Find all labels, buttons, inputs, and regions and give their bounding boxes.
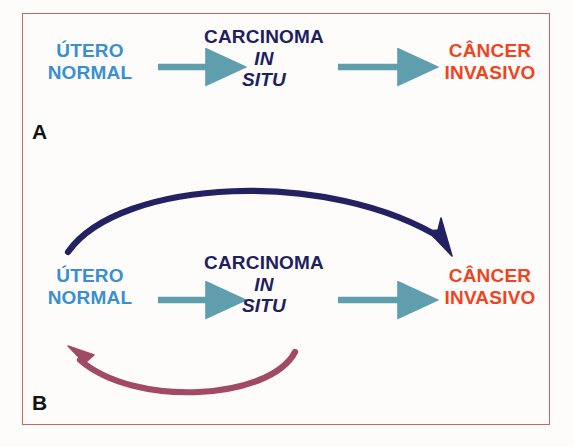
panel-a-carcinoma-line2: IN: [190, 48, 338, 70]
panel-b-node-invasive-cancer: CÂNCER INVASIVO: [420, 265, 560, 308]
panel-a-invasive-line1: CÂNCER: [420, 40, 560, 62]
panel-a-carcinoma-line1: CARCINOMA: [190, 26, 338, 48]
panel-a-node-normal-uterus: ÚTERO NORMAL: [26, 40, 154, 83]
panel-a-node-carcinoma-in-situ: CARCINOMA IN SITU: [190, 26, 338, 91]
panel-b-carcinoma-line1: CARCINOMA: [190, 252, 338, 274]
panel-b-carcinoma-line3: SITU: [190, 295, 338, 317]
panel-a-normal-line2: NORMAL: [26, 62, 154, 84]
panel-b-letter: B: [32, 392, 47, 413]
panel-b-node-carcinoma-in-situ: CARCINOMA IN SITU: [190, 252, 338, 317]
panel-b-normal-line2: NORMAL: [26, 287, 154, 309]
panel-b-node-normal-uterus: ÚTERO NORMAL: [26, 265, 154, 308]
panel-b-carcinoma-line2: IN: [190, 274, 338, 296]
panel-b-normal-line1: ÚTERO: [26, 265, 154, 287]
panel-a-normal-line1: ÚTERO: [26, 40, 154, 62]
panel-a-node-invasive-cancer: CÂNCER INVASIVO: [420, 40, 560, 83]
panel-a-carcinoma-line3: SITU: [190, 69, 338, 91]
panel-a-letter: A: [32, 121, 47, 142]
panel-b-invasive-line2: INVASIVO: [420, 287, 560, 309]
panel-a-invasive-line2: INVASIVO: [420, 62, 560, 84]
figure-container: ÚTERO NORMAL CARCINOMA IN SITU CÂNCER IN…: [0, 0, 574, 447]
panel-b-invasive-line1: CÂNCER: [420, 265, 560, 287]
